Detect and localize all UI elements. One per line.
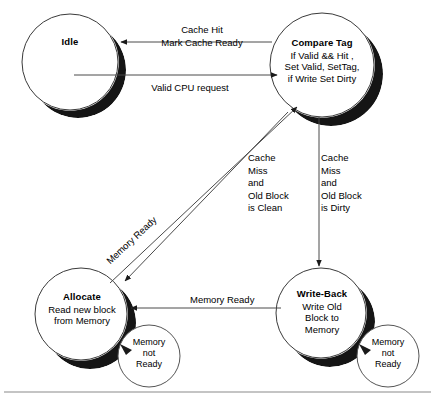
state-circle-compare-tag[interactable] [270,13,374,117]
writeback-self-loop-circle [357,325,419,387]
state-circle-allocate[interactable] [35,268,127,360]
allocate-self-loop-circle [118,325,180,387]
state-circle-write-back[interactable] [276,268,366,358]
arrow-compare-to-allocate[interactable] [125,112,288,281]
state-circle-idle[interactable] [22,14,118,110]
diagram-vector-layer [0,0,435,407]
arrow-allocate-to-compare[interactable] [110,107,297,283]
state-diagram-canvas: Idle Compare Tag If Valid && Hit , Set V… [0,0,435,407]
self-loop-shapes [118,325,419,387]
